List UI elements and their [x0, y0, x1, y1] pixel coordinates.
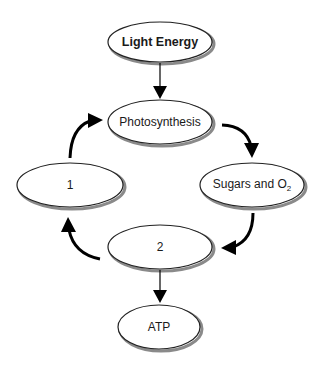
sugars-o2-text: Sugars and O2 [213, 177, 292, 193]
label-light-energy: Light Energy [108, 22, 212, 62]
atp-text: ATP [148, 320, 170, 334]
arrow-sugars-to-2 [221, 213, 253, 255]
node-1-text: 1 [67, 178, 74, 192]
photosynthesis-text: Photosynthesis [119, 115, 200, 129]
label-atp: ATP [118, 305, 200, 349]
label-sugars-o2: Sugars and O2 [200, 163, 304, 207]
photosynthesis-cycle-diagram: Light Energy Photosynthesis 1 Sugars and… [0, 0, 315, 372]
arrow-2-to-atp [153, 270, 167, 303]
arrow-photosynthesis-to-sugars [222, 125, 259, 158]
label-photosynthesis: Photosynthesis [108, 100, 212, 144]
node-2-text: 2 [157, 240, 164, 254]
arrow-2-to-1 [61, 217, 100, 259]
arrow-1-to-photosynthesis [70, 113, 103, 158]
subscript-2: 2 [287, 184, 291, 193]
label-node-2: 2 [108, 225, 212, 269]
arrow-light-to-photosynthesis [153, 63, 167, 99]
light-energy-text: Light Energy [122, 35, 198, 49]
label-node-1: 1 [17, 163, 123, 207]
